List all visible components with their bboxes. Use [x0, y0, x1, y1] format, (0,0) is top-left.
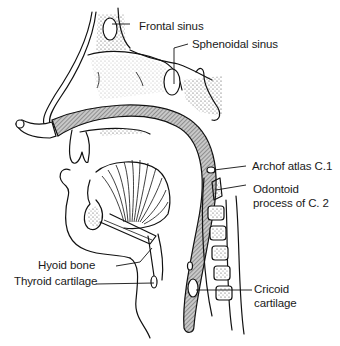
- jaw: [60, 169, 130, 258]
- label-odontoid-line1: Odontoid: [253, 183, 299, 196]
- label-thyroid-cartilage: Thyroid cartilage: [14, 275, 97, 288]
- nasopharyngeal-tube: [52, 105, 216, 332]
- label-odontoid-line2: process of C. 2: [253, 197, 329, 210]
- palate: [70, 128, 150, 163]
- tongue: [96, 160, 170, 228]
- airway-tube: [16, 120, 56, 138]
- label-frontal-sinus: Frontal sinus: [139, 20, 204, 33]
- label-arch-of-atlas: Archof atlas C.1: [252, 160, 332, 173]
- label-cricoid-line1: Cricoid: [254, 283, 289, 296]
- frontal-sinus-shape: [96, 14, 126, 52]
- label-cricoid-line2: cartilage: [254, 297, 297, 310]
- label-sphenoidal-sinus: Sphenoidal sinus: [192, 38, 278, 51]
- label-hyoid-bone: Hyoid bone: [38, 259, 95, 272]
